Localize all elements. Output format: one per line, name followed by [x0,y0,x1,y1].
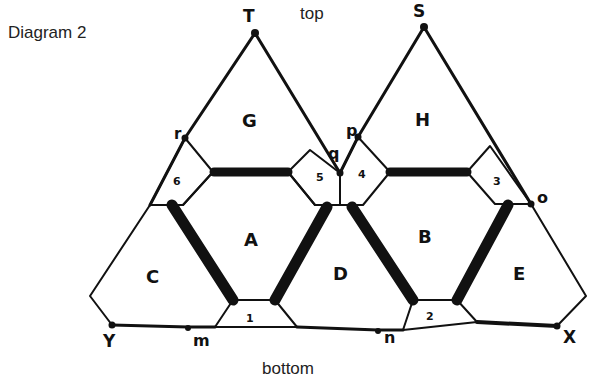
vertex-label-Y: Y [102,331,116,351]
region-label-C: C [146,266,159,287]
small-region-label-3: 3 [493,175,501,188]
vertex-label-n: n [384,328,395,347]
region-label-D: D [333,263,348,284]
small-region-label-4: 4 [358,168,366,181]
vertex-dot-q [337,170,344,177]
vertex-dot-S [420,23,428,31]
triangle-network-diagram: T S r p q o Y X m n G H A B C D E 1 2 3 … [0,0,592,380]
vertex-label-p: p [346,121,357,140]
vertex-label-q: q [328,144,339,163]
small-region-label-2: 2 [426,310,434,323]
small-region-label-6: 6 [173,175,181,188]
region-label-A: A [244,229,258,250]
vertex-dot-T [251,29,259,37]
vertex-label-r: r [174,125,182,143]
vertex-dot-m [185,325,191,331]
vertex-label-o: o [537,188,548,207]
region-label-B: B [418,226,432,247]
vertex-label-m: m [193,331,210,350]
region-label-E: E [513,263,525,284]
vertex-dot-o [528,201,535,208]
small-cells [150,137,531,330]
vertex-label-S: S [413,1,425,21]
vertex-dot-X [554,323,561,330]
vertex-label-T: T [243,6,255,26]
small-region-label-1: 1 [246,312,254,325]
vertex-dot-Y [109,322,116,329]
vertex-label-X: X [563,327,576,347]
small-region-label-5: 5 [316,171,324,184]
vertex-dot-n [375,328,381,334]
region-label-H: H [415,109,430,130]
small-region-labels: 1 2 3 4 5 6 [173,168,501,325]
region-label-G: G [242,110,257,131]
vertex-dot-r [182,135,189,142]
